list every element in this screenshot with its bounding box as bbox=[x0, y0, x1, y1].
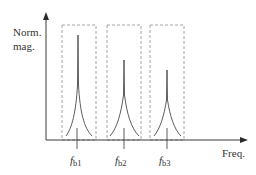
label-fb1: fb1 bbox=[70, 154, 82, 168]
y-axis-arrow-icon bbox=[43, 12, 49, 20]
resonance-peaks bbox=[66, 35, 181, 136]
y-axis-label-line1: Norm. bbox=[13, 26, 42, 38]
peak-curve-1 bbox=[66, 35, 92, 136]
label-fb3: fb3 bbox=[159, 154, 171, 168]
x-axis-arrow-icon bbox=[240, 137, 248, 143]
label-fb2-sub: b2 bbox=[118, 158, 127, 168]
peak-curve-3 bbox=[154, 70, 181, 136]
peak-curve-2 bbox=[110, 60, 139, 136]
resonance-peaks-diagram: Norm. mag. Freq. fb1 fb2 fb3 bbox=[0, 0, 256, 175]
frequency-ticks bbox=[77, 128, 167, 149]
label-fb2: fb2 bbox=[115, 154, 127, 168]
axes bbox=[43, 12, 248, 143]
label-fb1-sub: b1 bbox=[73, 158, 82, 168]
dashed-boxes bbox=[62, 25, 184, 140]
y-axis-label-line2: mag. bbox=[13, 40, 35, 52]
label-fb3-sub: b3 bbox=[162, 158, 171, 168]
dashed-box-1 bbox=[62, 25, 96, 140]
x-axis-label: Freq. bbox=[222, 147, 245, 159]
